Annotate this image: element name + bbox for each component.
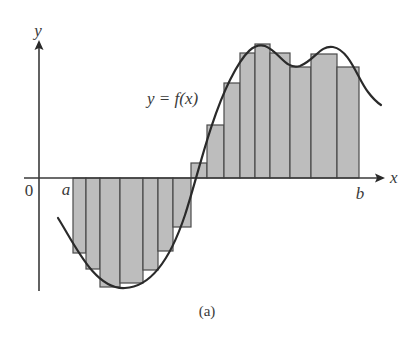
approximating-rectangles bbox=[73, 44, 359, 287]
curve-label: y = f(x) bbox=[145, 89, 198, 108]
riemann-rectangle bbox=[158, 178, 173, 251]
interval-end-label: b bbox=[356, 184, 365, 203]
riemann-rectangle bbox=[337, 67, 359, 178]
riemann-rectangle bbox=[100, 178, 120, 287]
riemann-sum-figure: y x 0 a b y = f(x) (a) bbox=[0, 0, 419, 339]
y-axis-label: y bbox=[32, 21, 42, 40]
riemann-rectangle bbox=[240, 53, 255, 178]
x-axis-label: x bbox=[389, 168, 398, 187]
riemann-rectangle bbox=[290, 67, 311, 178]
interval-start-label: a bbox=[62, 180, 71, 199]
origin-label: 0 bbox=[25, 181, 34, 200]
riemann-rectangle bbox=[224, 83, 240, 178]
riemann-rectangle bbox=[270, 53, 290, 178]
riemann-rectangle bbox=[73, 178, 86, 253]
riemann-rectangle bbox=[120, 178, 143, 283]
figure-caption: (a) bbox=[199, 303, 216, 320]
riemann-rectangle bbox=[311, 54, 337, 178]
riemann-rectangle bbox=[255, 44, 270, 178]
riemann-rectangle bbox=[86, 178, 100, 269]
riemann-rectangle bbox=[143, 178, 158, 270]
